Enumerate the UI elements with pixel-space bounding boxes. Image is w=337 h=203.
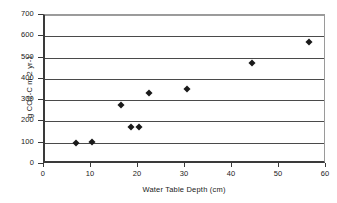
x-tick-40 [231,163,232,167]
y-axis-title: g CO2-C m-2 yr-1 [25,12,34,162]
x-tick-label-60: 60 [312,170,337,178]
gridline-600 [45,36,324,37]
data-point [127,123,134,130]
x-tick-label-30: 30 [171,170,197,178]
gridline-700 [45,15,324,16]
y-tick-300 [38,99,43,100]
x-axis-title: Water Table Depth (cm) [43,185,325,194]
gridline-500 [45,58,324,59]
data-point [72,140,79,147]
x-tick-label-50: 50 [265,170,291,178]
gridline-100 [45,143,324,144]
x-tick-10 [90,163,91,167]
data-point [306,39,313,46]
data-point [183,85,190,92]
x-tick-label-40: 40 [218,170,244,178]
x-tick-60 [325,163,326,167]
x-tick-20 [137,163,138,167]
x-tick-0 [43,163,44,167]
x-tick-label-10: 10 [77,170,103,178]
data-point [135,123,142,130]
y-tick-200 [38,120,43,121]
x-tick-30 [184,163,185,167]
plot-area [43,14,325,163]
gridline-300 [45,100,324,101]
y-tick-600 [38,35,43,36]
scatter-chart: 0100200300400500600700 0102030405060 Wat… [0,0,337,203]
x-tick-50 [278,163,279,167]
data-point [146,90,153,97]
x-tick-label-20: 20 [124,170,150,178]
x-tick-label-0: 0 [30,170,56,178]
y-tick-100 [38,142,43,143]
data-point [118,101,125,108]
y-tick-400 [38,78,43,79]
data-point [248,60,255,67]
y-tick-700 [38,14,43,15]
gridline-400 [45,79,324,80]
data-point [88,139,95,146]
gridline-200 [45,121,324,122]
y-tick-500 [38,57,43,58]
